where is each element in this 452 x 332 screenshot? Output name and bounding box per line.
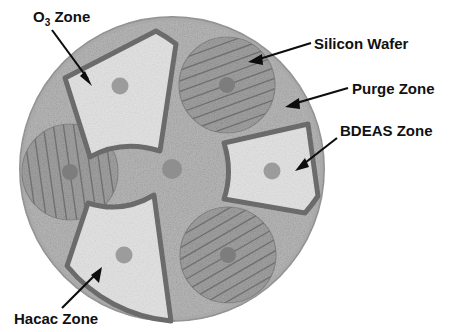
zone-o3-port-dot <box>112 78 129 95</box>
zone-hacac-port-dot <box>116 247 133 264</box>
spatial-ald-platen-diagram: O3 Zone Silicon Wafer Purge Zone BDEAS Z… <box>0 0 452 332</box>
label-purge-zone: Purge Zone <box>352 80 435 97</box>
label-o3-base: O <box>33 8 45 25</box>
zone-bdeas-port-dot <box>264 163 281 180</box>
label-bdeas-zone: BDEAS Zone <box>340 122 433 139</box>
label-o3-zone: O3 Zone <box>33 8 90 28</box>
wafer-center-dot <box>62 164 78 180</box>
platen-hub-dot <box>162 159 182 179</box>
zone-bdeas <box>224 124 318 213</box>
label-hacac-zone: Hacac Zone <box>14 310 98 327</box>
wafer-center-dot <box>220 247 236 263</box>
zone-hacac <box>67 195 171 321</box>
diagram-canvas: O3 Zone Silicon Wafer Purge Zone BDEAS Z… <box>0 0 452 332</box>
wafer-center-dot <box>219 77 235 93</box>
label-o3-tail: Zone <box>50 8 90 25</box>
label-silicon-wafer: Silicon Wafer <box>314 35 409 52</box>
